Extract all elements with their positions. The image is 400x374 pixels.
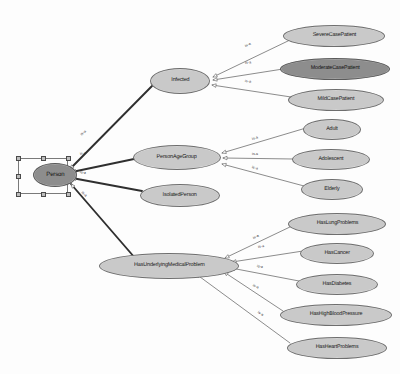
node-has_cancer[interactable]: HasCancer bbox=[300, 243, 374, 264]
node-has_high_blood_pressure[interactable]: HasHighBloodPressure bbox=[280, 304, 392, 326]
resize-handle-nw[interactable] bbox=[16, 156, 21, 161]
edge-person-underlying[interactable] bbox=[71, 184, 135, 258]
resize-handle-n[interactable] bbox=[41, 156, 46, 161]
node-person[interactable]: Person bbox=[33, 163, 77, 187]
node-has_heart_problems[interactable]: HasHeartProblems bbox=[287, 337, 387, 359]
edge-arrowhead-age-elderly bbox=[222, 163, 226, 166]
node-severe_case_patient-label: SevereCasePatient bbox=[309, 33, 358, 39]
node-isolated_person-label: IsolatedPerson bbox=[160, 193, 200, 199]
resize-handle-ne[interactable] bbox=[66, 156, 71, 161]
resize-handle-w[interactable] bbox=[16, 174, 21, 179]
node-infected-label: Infected bbox=[168, 78, 192, 84]
node-has_lung_problems-label: HasLungProblems bbox=[313, 221, 361, 227]
edge-underlying-pressure[interactable] bbox=[224, 272, 283, 311]
node-adolescent[interactable]: Adolescent bbox=[292, 149, 370, 170]
node-has_diabetes[interactable]: HasDiabetes bbox=[296, 274, 378, 295]
edge-label-person-isolated: is-a bbox=[80, 170, 87, 175]
edge-infected-moderate[interactable] bbox=[213, 69, 283, 80]
edge-arrowhead-infected-moderate bbox=[213, 78, 217, 82]
edge-underlying-lung[interactable] bbox=[225, 226, 292, 258]
node-has_lung_problems[interactable]: HasLungProblems bbox=[288, 213, 386, 235]
edge-arrowhead-infected-severe bbox=[213, 74, 217, 77]
edge-person-isolated[interactable] bbox=[72, 178, 142, 191]
node-has_underlying[interactable]: HasUnderlyingMedicalProblem bbox=[99, 253, 239, 279]
node-isolated_person[interactable]: IsolatedPerson bbox=[140, 184, 220, 207]
node-severe_case_patient[interactable]: SevereCasePatient bbox=[283, 25, 385, 47]
edge-infected-mild[interactable] bbox=[212, 85, 291, 97]
diagram-canvas[interactable]: InfectedPersonAgeGroupIsolatedPersonHasU… bbox=[0, 0, 400, 374]
edge-arrowhead-infected-mild bbox=[212, 84, 216, 88]
node-has_cancer-label: HasCancer bbox=[321, 251, 352, 257]
resize-handle-s[interactable] bbox=[41, 192, 46, 197]
node-has_diabetes-label: HasDiabetes bbox=[320, 282, 355, 288]
node-adult[interactable]: Adult bbox=[303, 119, 361, 140]
resize-handle-se[interactable] bbox=[66, 192, 71, 197]
node-has_high_blood_pressure-label: HasHighBloodPressure bbox=[307, 312, 365, 318]
node-has_heart_problems-label: HasHeartProblems bbox=[313, 345, 362, 351]
edge-underlying-diabetes[interactable] bbox=[231, 268, 299, 281]
node-moderate_case_patient[interactable]: ModerateCasePatient bbox=[280, 58, 390, 80]
node-mild_case_patient-label: MildCasePatient bbox=[315, 97, 357, 103]
edge-arrowhead-age-adult bbox=[222, 150, 226, 153]
node-has_underlying-label: HasUnderlyingMedicalProblem bbox=[131, 263, 207, 269]
edge-label-age-adolescent: is-a bbox=[252, 152, 258, 156]
edge-age-elderly[interactable] bbox=[222, 164, 304, 186]
resize-handle-sw[interactable] bbox=[16, 192, 21, 197]
edge-label-infected-mild: is-a bbox=[245, 79, 252, 84]
edge-label-infected-moderate: is-a bbox=[245, 60, 252, 65]
node-mild_case_patient[interactable]: MildCasePatient bbox=[288, 89, 384, 111]
node-adolescent-label: Adolescent bbox=[316, 157, 347, 163]
node-person-label: Person bbox=[43, 172, 67, 179]
edge-underlying-cancer[interactable] bbox=[232, 251, 303, 262]
node-person_age_group-label: PersonAgeGroup bbox=[154, 155, 200, 161]
node-elderly-label: Elderly bbox=[321, 187, 342, 193]
node-moderate_case_patient-label: ModerateCasePatient bbox=[308, 66, 363, 72]
edge-arrowhead-age-adolescent bbox=[223, 156, 227, 160]
edge-infected-severe[interactable] bbox=[213, 40, 290, 77]
node-infected[interactable]: Infected bbox=[150, 68, 210, 94]
edge-age-adult[interactable] bbox=[222, 128, 306, 153]
edge-age-adolescent[interactable] bbox=[223, 158, 293, 159]
node-elderly[interactable]: Elderly bbox=[301, 179, 363, 200]
node-adult-label: Adult bbox=[323, 127, 340, 133]
node-person_age_group[interactable]: PersonAgeGroup bbox=[133, 145, 221, 170]
